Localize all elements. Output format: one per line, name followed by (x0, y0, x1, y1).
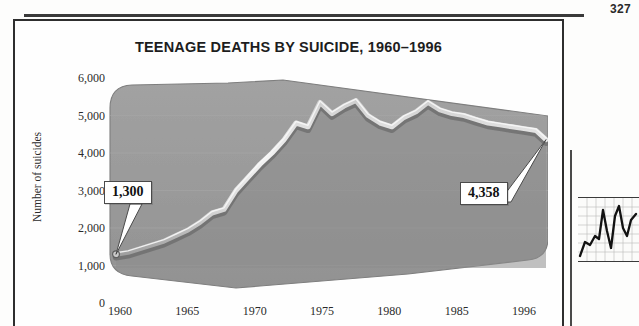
x-tick-label: 1965 (175, 304, 199, 319)
margin-rule (570, 150, 572, 326)
y-tick-label: 6,000 (78, 71, 105, 86)
x-tick-label: 1975 (310, 304, 334, 319)
figure-frame: TEENAGE DEATHS BY SUICIDE, 1960–1996 Num… (13, 19, 564, 326)
page-number: 327 (610, 2, 631, 16)
y-tick-label: 5,000 (78, 108, 105, 123)
graph-paper-grid (578, 198, 639, 261)
x-axis-ticks: 1960196519701975198019851996 (15, 304, 562, 324)
y-tick-label: 1,000 (78, 258, 105, 273)
x-tick-label: 1985 (445, 304, 469, 319)
textbook-page: 327 TEENAGE DEATHS BY SUICIDE, 1960–1996… (0, 0, 639, 326)
adjacent-series-line (580, 206, 636, 256)
callout-end-value: 4,358 (460, 182, 508, 205)
y-axis-label: Number of suicides (31, 97, 43, 257)
page-header-rule (24, 14, 584, 17)
x-tick-label: 1996 (512, 304, 536, 319)
adjacent-chart-svg (578, 198, 639, 261)
y-axis-ticks: 01,0002,0003,0004,0005,0006,000 (53, 21, 105, 326)
y-tick-label: 4,000 (78, 146, 105, 161)
x-tick-label: 1960 (108, 304, 132, 319)
y-tick-label: 3,000 (78, 183, 105, 198)
callout-start-value: 1,300 (104, 181, 152, 204)
x-tick-label: 1980 (377, 304, 401, 319)
adjacent-figure-crop (578, 197, 639, 262)
plot-area: 1,300 4,358 (108, 78, 548, 303)
x-tick-label: 1970 (243, 304, 267, 319)
y-tick-label: 2,000 (78, 221, 105, 236)
